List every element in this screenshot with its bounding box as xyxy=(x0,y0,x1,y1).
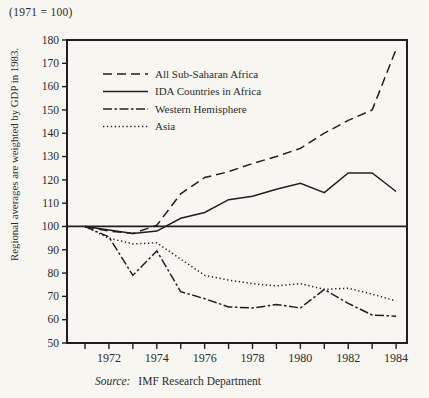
svg-text:150: 150 xyxy=(42,104,60,116)
legend-label: Western Hemisphere xyxy=(155,103,247,115)
chart-legend: All Sub-Saharan AfricaIDA Countries in A… xyxy=(103,68,261,133)
legend-item-all-sub-saharan-africa: All Sub-Saharan Africa xyxy=(103,68,258,80)
svg-text:170: 170 xyxy=(42,57,60,69)
y-axis-title: Regional averages are weighted by GDP in… xyxy=(8,69,24,261)
svg-text:90: 90 xyxy=(48,244,60,256)
index-base-note: (1971 = 100) xyxy=(9,6,73,18)
figure-page: (1971 = 100) Regional averages are weigh… xyxy=(0,0,429,398)
svg-text:1984: 1984 xyxy=(384,351,408,365)
series-line-ida-countries-in-africa xyxy=(85,173,396,234)
x-axis-labels: 1972197419761978198019821984 xyxy=(97,351,408,365)
svg-text:60: 60 xyxy=(48,313,60,325)
legend-item-western-hemisphere: Western Hemisphere xyxy=(103,103,247,115)
svg-text:80: 80 xyxy=(48,267,60,279)
series-line-asia xyxy=(85,227,396,302)
svg-text:160: 160 xyxy=(42,80,60,92)
svg-text:1980: 1980 xyxy=(288,351,312,365)
legend-label: All Sub-Saharan Africa xyxy=(155,68,258,80)
svg-text:1978: 1978 xyxy=(241,351,265,365)
y-axis-labels: 5060708090100110120130140150160170180 xyxy=(42,34,60,349)
svg-text:1976: 1976 xyxy=(193,351,217,365)
legend-item-asia: Asia xyxy=(103,120,175,132)
svg-text:110: 110 xyxy=(42,197,59,209)
source-note: Source:IMF Research Department xyxy=(95,375,261,387)
svg-text:140: 140 xyxy=(42,127,60,139)
legend-item-ida-countries-in-africa: IDA Countries in Africa xyxy=(103,85,261,97)
svg-text:1982: 1982 xyxy=(336,351,360,365)
legend-label: Asia xyxy=(155,120,175,132)
series-line-western-hemisphere xyxy=(85,227,396,317)
svg-text:180: 180 xyxy=(42,34,60,46)
svg-text:1974: 1974 xyxy=(145,351,169,365)
svg-text:120: 120 xyxy=(42,174,60,186)
legend-label: IDA Countries in Africa xyxy=(155,85,261,97)
svg-text:130: 130 xyxy=(42,150,60,162)
svg-text:70: 70 xyxy=(48,290,60,302)
svg-text:100: 100 xyxy=(42,220,60,232)
source-text: IMF Research Department xyxy=(138,375,261,387)
chart-canvas: 5060708090100110120130140150160170180197… xyxy=(0,0,429,398)
svg-text:1972: 1972 xyxy=(97,351,121,365)
svg-text:50: 50 xyxy=(48,337,60,349)
source-label: Source: xyxy=(95,375,130,387)
